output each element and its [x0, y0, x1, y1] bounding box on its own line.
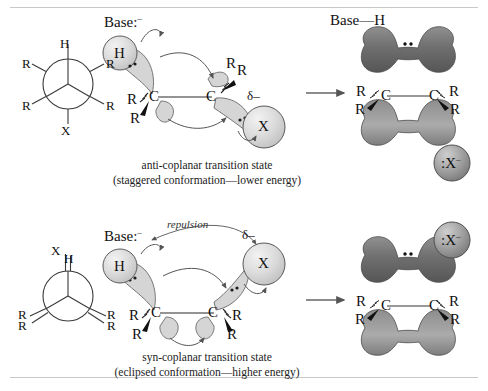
transition-state-anti — [103, 30, 344, 148]
ts-syn-right-r-1: R — [232, 308, 242, 323]
product-anti-left-r-1: R — [356, 84, 366, 99]
base-anion-label-syn: Base:– — [104, 228, 142, 244]
product-syn-left-r-1: R — [356, 294, 366, 309]
newman-anti-label-r-upper-left: R — [22, 57, 31, 70]
newman-syn-label-x: X — [51, 244, 60, 257]
product-anti-right-r-1: R — [449, 84, 459, 99]
ts-anti-right-r-1: R — [226, 56, 236, 71]
product-anti-right-carbon: C — [429, 88, 439, 103]
newman-projection-anti — [32, 44, 104, 124]
product-syn-leaving-ion: :X– — [441, 232, 461, 248]
ts-anti-leaving-group: X — [258, 119, 269, 134]
ts-syn-right-carbon: C — [208, 305, 218, 320]
ts-syn-left-carbon: C — [151, 305, 161, 320]
base-charge-anti: – — [137, 13, 142, 23]
newman-anti-label-r-lower-right: R — [106, 99, 115, 112]
product-anti-base-h: Base—H — [330, 13, 385, 28]
ts-anti-left-carbon: C — [149, 89, 159, 104]
newman-anti-label-x: X — [61, 124, 70, 137]
newman-anti-label-h: H — [60, 37, 69, 50]
product-syn-left-r-2: R — [355, 312, 365, 327]
ts-syn-left-r-1: R — [129, 308, 139, 323]
base-anion-label-anti: Base:– — [104, 14, 142, 30]
leaving-ion-charge-syn: – — [456, 231, 461, 241]
caption-syn-line1: syn-coplanar transition state — [142, 352, 272, 364]
product-anti-leaving-ion: :X– — [441, 155, 461, 171]
product-anti-left-carbon: C — [381, 88, 391, 103]
diagram-svg — [0, 0, 488, 391]
base-text-syn: Base: — [104, 228, 137, 244]
product-syn-right-carbon: C — [429, 298, 439, 313]
ts-anti-right-carbon: C — [206, 89, 216, 104]
ts-syn-right-r-2: R — [227, 327, 237, 342]
ts-syn-left-r-2: R — [132, 327, 142, 342]
caption-anti-line2: (staggered conformation—lower energy) — [113, 175, 301, 187]
leaving-ion-text-anti: :X — [441, 155, 456, 171]
newman-syn-label-r-lower-left: R — [18, 319, 27, 332]
caption-anti-line1: anti-coplanar transition state — [142, 160, 273, 172]
product-syn-left-carbon: C — [381, 298, 391, 313]
leaving-ion-charge-anti: – — [456, 154, 461, 164]
caption-syn-line2: (eclipsed conformation—higher energy) — [115, 367, 300, 379]
repulsion-annotation: repulsion — [167, 219, 208, 230]
ts-syn-hydrogen: H — [114, 259, 125, 274]
newman-syn-label-h: H — [64, 252, 73, 265]
base-text-anti: Base: — [104, 14, 137, 30]
ts-anti-left-r-1: R — [127, 92, 137, 107]
newman-syn-label-r-lower-right: R — [107, 319, 116, 332]
figure-canvas: H R R R R X Base:– H C C R R R R X δ– Ba… — [0, 0, 488, 391]
ts-syn-delta-minus: δ– — [242, 228, 255, 241]
leaving-ion-text-syn: :X — [441, 232, 456, 248]
ts-anti-right-r-2: R — [237, 63, 247, 78]
ts-syn-leaving-group: X — [258, 256, 269, 271]
product-anti-left-r-2: R — [355, 102, 365, 117]
ts-anti-left-r-2: R — [130, 111, 140, 126]
product-anti-right-r-2: R — [450, 102, 460, 117]
ts-anti-delta-minus: δ– — [247, 89, 260, 102]
product-syn-right-r-1: R — [449, 294, 459, 309]
product-syn-right-r-2: R — [450, 312, 460, 327]
newman-anti-label-r-lower-left: R — [22, 99, 31, 112]
base-charge-syn: – — [137, 227, 142, 237]
ts-anti-hydrogen: H — [114, 46, 125, 61]
